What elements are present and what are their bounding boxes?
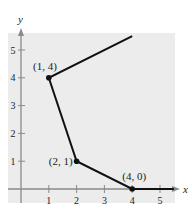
x-axis-label: x bbox=[182, 183, 188, 195]
x-tick-label: 3 bbox=[102, 195, 107, 206]
y-axis-label: y bbox=[17, 13, 23, 25]
y-tick-label: 4 bbox=[11, 72, 16, 83]
y-tick-label: 3 bbox=[11, 100, 16, 111]
data-point-marker bbox=[46, 75, 52, 81]
data-point-label: (1, 4) bbox=[33, 60, 57, 73]
y-axis-arrow-icon bbox=[18, 28, 24, 36]
y-tick-label: 5 bbox=[11, 45, 16, 56]
plot-background bbox=[8, 33, 175, 203]
data-point-marker bbox=[129, 186, 135, 192]
x-tick-label: 5 bbox=[158, 195, 163, 206]
x-tick-label: 2 bbox=[74, 195, 79, 206]
x-tick-label: 1 bbox=[46, 195, 51, 206]
data-point-label: (2, 1) bbox=[49, 155, 73, 168]
data-point-label: (4, 0) bbox=[122, 170, 146, 183]
data-point-marker bbox=[74, 158, 80, 164]
x-tick-label: 4 bbox=[130, 195, 135, 206]
y-tick-label: 2 bbox=[11, 128, 16, 139]
chart: xy 1234512345 (1, 4)(2, 1)(4, 0) bbox=[0, 0, 192, 213]
y-tick-label: 1 bbox=[11, 156, 16, 167]
